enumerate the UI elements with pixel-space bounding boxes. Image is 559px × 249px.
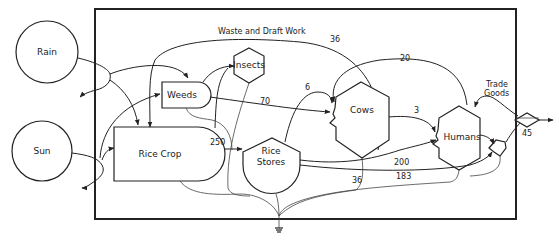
node-cows-label: Cows bbox=[350, 105, 374, 115]
flow-label-200: 200 bbox=[394, 158, 409, 167]
transaction-icon bbox=[489, 140, 506, 156]
exchange-diamond: 45 bbox=[515, 113, 553, 138]
flow-label-70: 70 bbox=[260, 97, 270, 106]
annotation-trade-goods-1: Trade bbox=[485, 80, 508, 89]
node-insects-label: Insects bbox=[233, 60, 265, 70]
node-humans: Humans bbox=[433, 106, 481, 170]
consumer-hexagon-icon bbox=[330, 82, 389, 158]
source-rain: Rain bbox=[16, 21, 78, 83]
node-insects: Insects bbox=[233, 48, 265, 83]
trade-junction bbox=[489, 140, 506, 156]
heat-sink-icon bbox=[275, 228, 283, 232]
flow-label-250: 250 bbox=[210, 138, 225, 147]
flow-label-20: 20 bbox=[400, 54, 410, 63]
annotation-waste-draft: Waste and Draft Work bbox=[218, 27, 306, 36]
node-rice-stores: Rice Stores bbox=[243, 138, 300, 194]
node-weeds: Weeds bbox=[162, 82, 211, 108]
flow-label-36-waste: 36 bbox=[330, 35, 340, 44]
rice-farm-energy-diagram: Rain Sun Weeds Insects Rice Crop Waste a… bbox=[0, 0, 559, 249]
flow-label-45: 45 bbox=[522, 129, 532, 138]
flow-label-36-sink: 36 bbox=[352, 176, 362, 185]
node-cows: Cows bbox=[330, 82, 389, 158]
node-rice-stores-label-2: Stores bbox=[257, 157, 286, 167]
source-sun: Sun bbox=[12, 121, 72, 181]
node-rice-crop: Rice Crop bbox=[114, 127, 225, 181]
flow-label-3: 3 bbox=[414, 106, 419, 115]
node-weeds-label: Weeds bbox=[167, 90, 197, 100]
node-rice-stores-label-1: Rice bbox=[261, 146, 281, 156]
source-sun-label: Sun bbox=[33, 146, 50, 156]
flow-label-183: 183 bbox=[396, 172, 411, 181]
node-humans-label: Humans bbox=[443, 132, 480, 142]
source-rain-label: Rain bbox=[37, 47, 57, 57]
annotation-trade-goods-2: Goods bbox=[484, 89, 509, 98]
flow-label-6: 6 bbox=[305, 83, 310, 92]
node-rice-crop-label: Rice Crop bbox=[138, 149, 181, 159]
